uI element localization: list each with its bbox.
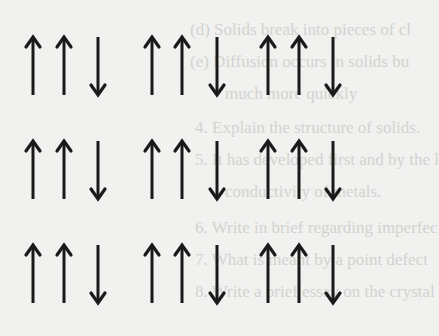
arrow-up-icon <box>145 141 159 199</box>
arrow-up-icon <box>26 141 40 199</box>
spin-row <box>26 141 340 199</box>
arrow-up-icon <box>292 141 306 199</box>
arrow-up-icon <box>26 245 40 303</box>
arrow-up-icon <box>261 37 275 95</box>
arrow-up-icon <box>292 37 306 95</box>
spin-row <box>26 37 340 95</box>
arrow-down-icon <box>91 141 105 199</box>
arrow-down-icon <box>91 37 105 95</box>
arrow-up-icon <box>175 245 189 303</box>
arrow-down-icon <box>326 141 340 199</box>
arrow-up-icon <box>145 37 159 95</box>
arrow-up-icon <box>175 37 189 95</box>
arrow-up-icon <box>175 141 189 199</box>
arrow-down-icon <box>210 245 224 303</box>
arrow-up-icon <box>57 37 71 95</box>
arrow-up-icon <box>261 141 275 199</box>
arrow-up-icon <box>292 245 306 303</box>
arrow-up-icon <box>261 245 275 303</box>
spin-row <box>26 245 340 303</box>
arrow-up-icon <box>57 141 71 199</box>
arrow-down-icon <box>326 37 340 95</box>
arrow-up-icon <box>145 245 159 303</box>
arrow-down-icon <box>326 245 340 303</box>
arrow-up-icon <box>26 37 40 95</box>
arrow-down-icon <box>210 141 224 199</box>
arrow-up-icon <box>57 245 71 303</box>
arrow-down-icon <box>91 245 105 303</box>
arrow-down-icon <box>210 37 224 95</box>
